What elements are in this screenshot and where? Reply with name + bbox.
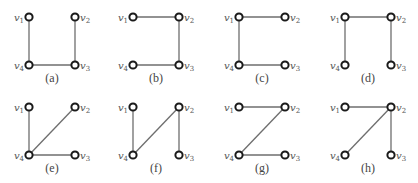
vertex-v3 xyxy=(387,151,394,158)
vertex-v1 xyxy=(235,13,242,20)
vertex-label-v2: v2 xyxy=(396,12,406,25)
vertex-v4 xyxy=(25,151,32,158)
vertex-v1 xyxy=(341,13,348,20)
vertex-label-v3: v3 xyxy=(80,150,90,163)
vertex-v1 xyxy=(341,103,348,110)
vertex-label-v4: v4 xyxy=(118,60,129,73)
edge-v4-v2 xyxy=(29,107,75,155)
vertex-label-v3: v3 xyxy=(290,150,300,163)
vertex-v4 xyxy=(25,61,32,68)
vertex-label-v1: v1 xyxy=(14,102,24,115)
edge-v2-v4 xyxy=(239,107,285,155)
graph-panel-g: v1v2v3v4(g) xyxy=(224,102,300,176)
vertex-v2 xyxy=(387,103,394,110)
vertex-label-v2: v2 xyxy=(184,12,194,25)
panel-caption: (f) xyxy=(150,161,162,175)
vertex-label-v4: v4 xyxy=(14,150,25,163)
vertex-label-v1: v1 xyxy=(224,12,234,25)
vertex-v3 xyxy=(175,151,182,158)
vertex-v1 xyxy=(129,103,136,110)
vertex-label-v3: v3 xyxy=(396,150,406,163)
vertex-label-v1: v1 xyxy=(14,12,24,25)
graph-panel-b: v1v2v3v4(b) xyxy=(118,12,194,86)
graph-panel-f: v1v2v3v4(f) xyxy=(118,102,194,176)
vertex-label-v3: v3 xyxy=(396,60,406,73)
panel-caption: (a) xyxy=(45,71,58,85)
vertex-v2 xyxy=(281,13,288,20)
vertex-v4 xyxy=(235,61,242,68)
vertex-v3 xyxy=(71,61,78,68)
graph-panel-d: v1v2v3v4(d) xyxy=(330,12,406,86)
vertex-v2 xyxy=(175,13,182,20)
vertex-v4 xyxy=(129,151,136,158)
vertex-label-v1: v1 xyxy=(330,102,340,115)
vertex-label-v4: v4 xyxy=(330,150,341,163)
vertex-label-v2: v2 xyxy=(80,12,90,25)
panel-caption: (e) xyxy=(45,161,58,175)
vertex-v3 xyxy=(175,61,182,68)
panel-caption: (d) xyxy=(361,71,375,85)
vertex-label-v4: v4 xyxy=(224,60,235,73)
vertex-v3 xyxy=(281,151,288,158)
vertex-v2 xyxy=(387,13,394,20)
vertex-label-v3: v3 xyxy=(184,60,194,73)
vertex-label-v2: v2 xyxy=(396,102,406,115)
vertex-v2 xyxy=(175,103,182,110)
vertex-label-v1: v1 xyxy=(118,12,128,25)
edge-v2-v4 xyxy=(345,107,391,155)
vertex-label-v4: v4 xyxy=(330,60,341,73)
vertex-v4 xyxy=(341,151,348,158)
vertex-v3 xyxy=(71,151,78,158)
vertex-v2 xyxy=(71,103,78,110)
panel-caption: (h) xyxy=(361,161,375,175)
vertex-v2 xyxy=(71,13,78,20)
graph-panel-h: v1v2v3v4(h) xyxy=(330,102,406,176)
vertex-label-v1: v1 xyxy=(330,12,340,25)
vertex-label-v4: v4 xyxy=(118,150,129,163)
vertex-label-v3: v3 xyxy=(184,150,194,163)
vertex-label-v2: v2 xyxy=(80,102,90,115)
vertex-v1 xyxy=(25,13,32,20)
vertex-label-v3: v3 xyxy=(80,60,90,73)
panel-caption: (g) xyxy=(255,161,269,175)
panel-caption: (c) xyxy=(255,71,268,85)
vertex-v3 xyxy=(281,61,288,68)
edge-v4-v2 xyxy=(133,107,179,155)
vertex-v1 xyxy=(129,13,136,20)
vertex-label-v2: v2 xyxy=(290,12,300,25)
vertex-label-v3: v3 xyxy=(290,60,300,73)
graph-panel-c: v1v2v3v4(c) xyxy=(224,12,300,86)
vertex-label-v2: v2 xyxy=(184,102,194,115)
vertex-label-v2: v2 xyxy=(290,102,300,115)
vertex-v2 xyxy=(281,103,288,110)
panel-caption: (b) xyxy=(149,71,163,85)
vertex-label-v1: v1 xyxy=(118,102,128,115)
graph-panel-a: v1v2v3v4(a) xyxy=(14,12,90,86)
vertex-label-v1: v1 xyxy=(224,102,234,115)
vertex-v4 xyxy=(235,151,242,158)
vertex-label-v4: v4 xyxy=(14,60,25,73)
vertex-label-v4: v4 xyxy=(224,150,235,163)
vertex-v3 xyxy=(387,61,394,68)
vertex-v1 xyxy=(235,103,242,110)
graph-panel-e: v1v2v3v4(e) xyxy=(14,102,90,176)
vertex-v4 xyxy=(129,61,136,68)
spanning-trees-figure: v1v2v3v4(a)v1v2v3v4(b)v1v2v3v4(c)v1v2v3v… xyxy=(0,0,418,183)
vertex-v4 xyxy=(341,61,348,68)
vertex-v1 xyxy=(25,103,32,110)
